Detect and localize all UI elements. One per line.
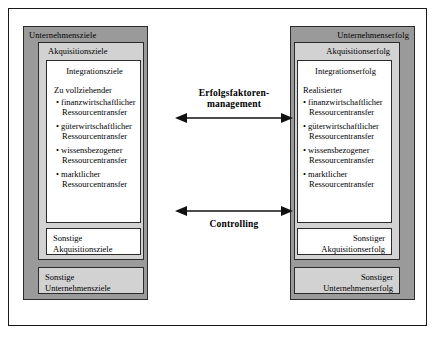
- bullet-line2: Ressourcentransfer: [56, 155, 142, 165]
- left-sonstige-akq-line1: Sonstige: [53, 233, 140, 244]
- right-sonstige-akq-line2: Akquisitionserfolg: [298, 244, 385, 255]
- right-sonstige-akquisitionserfolg-box: Sonstiger Akquisitionserfolg: [297, 228, 392, 255]
- diagram-canvas: Unternehmensziele Akquisitionsziele Inte…: [0, 0, 439, 338]
- left-sonstige-unt-line1: Sonstige: [45, 272, 143, 283]
- bullet-line2: Ressourcentransfer: [303, 131, 391, 141]
- connector-erfolgsfaktorenmanagement: Erfolgsfaktoren- management: [175, 88, 293, 126]
- bullet-glyph: •: [303, 121, 306, 131]
- bullet-glyph: •: [303, 169, 306, 179]
- left-akquisitionsziele-label: Akquisitionsziele: [48, 46, 108, 56]
- bullet-line1: marktlicher: [308, 169, 347, 179]
- list-item: • wissensbezogener Ressourcentransfer: [56, 145, 142, 165]
- list-item: • güterwirtschaftlicher Ressourcentransf…: [303, 121, 391, 141]
- list-item: • finanzwirtschaftlicher Ressourcentrans…: [303, 97, 391, 117]
- list-item: • wissensbezogener Ressourcentransfer: [303, 145, 391, 165]
- list-item: • finanzwirtschaftlicher Ressourcentrans…: [56, 97, 142, 117]
- left-bullet-list: • finanzwirtschaftlicher Ressourcentrans…: [56, 97, 142, 193]
- bullet-line2: Ressourcentransfer: [303, 179, 391, 189]
- bullet-line1: marktlicher: [61, 169, 100, 179]
- right-sonstige-akq-line1: Sonstiger: [298, 233, 385, 244]
- right-sonstige-unternehmenserfolg-box: Sonstiger Unternehmenserfolg: [294, 267, 400, 294]
- left-sonstige-akquisitionsziele-box: Sonstige Akquisitionsziele: [46, 228, 141, 255]
- bidirectional-arrow-icon: [175, 111, 293, 125]
- connector-label-controlling: Controlling: [175, 219, 293, 230]
- bullet-line2: Ressourcentransfer: [303, 155, 391, 165]
- left-integrationsziele-box: Integrationsziele Zu vollziehender • fin…: [46, 60, 141, 223]
- bullet-glyph: •: [56, 169, 59, 179]
- bullet-glyph: •: [56, 97, 59, 107]
- left-sonstige-unternehmensziele-box: Sonstige Unternehmensziele: [38, 267, 144, 294]
- connector-label-line1: Erfolgsfaktoren-: [199, 88, 270, 98]
- left-sonstige-akq-line2: Akquisitionsziele: [53, 244, 140, 255]
- connector-controlling: Controlling: [175, 204, 293, 238]
- right-sonstige-unt-line2: Unternehmenserfolg: [295, 283, 393, 294]
- bullet-line2: Ressourcentransfer: [56, 107, 142, 117]
- bullet-line1: wissensbezogener: [61, 145, 122, 155]
- right-integrationserfolg-box: Integrationserfolg Realisierter • finanz…: [297, 60, 392, 223]
- bullet-line1: finanzwirtschaftlicher: [308, 97, 383, 107]
- bullet-line2: Ressourcentransfer: [56, 131, 142, 141]
- list-item: • güterwirtschaftlicher Ressourcentransf…: [56, 121, 142, 141]
- bidirectional-arrow-icon: [175, 204, 293, 218]
- connector-label-line1: Controlling: [209, 219, 258, 229]
- left-unternehmensziele-label: Unternehmensziele: [29, 30, 96, 40]
- left-sonstige-unt-line2: Unternehmensziele: [45, 283, 143, 294]
- bullet-glyph: •: [56, 145, 59, 155]
- left-lead-text: Zu vollziehender: [54, 85, 112, 95]
- bullet-glyph: •: [303, 145, 306, 155]
- right-unternehmenserfolg-label: Unternehmenserfolg: [337, 30, 409, 40]
- list-item: • marktlicher Ressourcentransfer: [303, 169, 391, 189]
- bullet-line2: Ressourcentransfer: [303, 107, 391, 117]
- list-item: • marktlicher Ressourcentransfer: [56, 169, 142, 189]
- bullet-line1: güterwirtschaftlicher: [308, 121, 379, 131]
- right-integrationserfolg-label: Integrationserfolg: [298, 66, 393, 76]
- bullet-line1: güterwirtschaftlicher: [61, 121, 132, 131]
- left-integrationsziele-label: Integrationsziele: [47, 66, 142, 76]
- bullet-glyph: •: [56, 121, 59, 131]
- bullet-line2: Ressourcentransfer: [56, 179, 142, 189]
- right-bullet-list: • finanzwirtschaftlicher Ressourcentrans…: [303, 97, 391, 193]
- bullet-line1: wissensbezogener: [308, 145, 369, 155]
- connector-label-line2: management: [175, 99, 293, 110]
- right-lead-text: Realisierter: [303, 85, 342, 95]
- bullet-glyph: •: [303, 97, 306, 107]
- bullet-line1: finanzwirtschaftlicher: [61, 97, 136, 107]
- connector-label-erfolgsfaktorenmanagement: Erfolgsfaktoren- management: [175, 88, 293, 110]
- right-sonstige-unt-line1: Sonstiger: [295, 272, 393, 283]
- right-akquisitionserfolg-label: Akquisitionserfolg: [326, 46, 390, 56]
